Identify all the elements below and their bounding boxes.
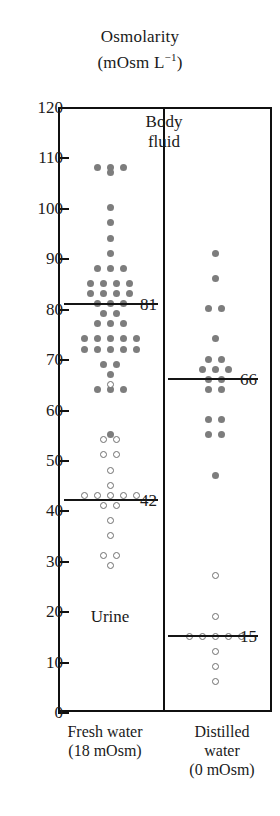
data-point [113,502,120,509]
data-point [120,335,127,342]
data-point [205,356,212,363]
data-point [120,320,127,327]
data-point [107,235,114,242]
data-point [212,335,219,342]
data-point [81,335,88,342]
data-point [94,335,101,342]
data-point [107,320,114,327]
data-point [120,386,127,393]
data-point [107,381,114,388]
annotation-body-fluid-line1: Body [146,112,183,131]
mean-value-label: 66 [240,371,257,388]
data-point [212,250,219,257]
data-point [94,164,101,171]
data-point [113,290,120,297]
x-axis-label-fresh-water-line2: (18 mOsm) [68,742,141,759]
data-point [100,502,107,509]
chart-title: Osmolarity (mOsm L−1) [0,26,280,73]
panel-divider [163,107,165,712]
figure-osmolarity-dotplot: Osmolarity (mOsm L−1) 120110100908070605… [0,0,280,816]
data-point [100,280,107,287]
x-axis-label-distilled-water: Distilled water (0 mOsm) [164,722,280,779]
data-point [107,517,114,524]
data-point [199,366,206,373]
data-point [113,361,120,368]
data-point [126,280,133,287]
data-point [212,648,219,655]
data-point [94,265,101,272]
data-point [107,532,114,539]
data-point [113,280,120,287]
data-point [87,290,94,297]
data-point [120,346,127,353]
data-point [212,613,219,620]
data-point [212,275,219,282]
data-point [107,492,114,499]
y-axis-tick-label: 100 [3,200,63,217]
data-point [133,335,140,342]
data-point [81,492,88,499]
data-point [107,482,114,489]
data-point [100,290,107,297]
y-axis-tick-label: 0 [3,704,63,721]
y-axis-tick-label: 80 [3,301,63,318]
x-axis-label-fresh-water-line1: Fresh water [67,723,142,740]
annotation-body-fluid: Body fluid [108,112,220,152]
data-point [94,386,101,393]
data-point [81,346,88,353]
data-point [107,265,114,272]
data-point [126,290,133,297]
y-axis-tick-label: 20 [3,603,63,620]
data-point [107,346,114,353]
data-point [107,335,114,342]
chart-title-line2: (mOsm L−1) [0,47,280,73]
data-point [212,572,219,579]
mean-value-label: 15 [240,628,257,645]
data-point [133,492,140,499]
data-point [94,346,101,353]
y-axis-tick-label: 10 [3,654,63,671]
chart-title-line1: Osmolarity [101,27,180,46]
data-point [107,250,114,257]
data-point [120,492,127,499]
x-axis-label-distilled-water-line3: (0 mOsm) [189,761,254,778]
data-point [225,366,232,373]
y-axis-tick-label: 30 [3,553,63,570]
chart-title-units-exponent: −1 [165,51,177,63]
mean-value-label: 42 [140,492,157,509]
annotation-urine: Urine [62,607,158,627]
y-axis-tick-label: 110 [3,149,63,166]
data-point [120,164,127,171]
data-point [205,386,212,393]
data-point [212,663,219,670]
y-axis-tick-label: 120 [3,99,63,116]
data-point [107,562,114,569]
data-point [120,265,127,272]
data-point [94,320,101,327]
y-axis-tick-label: 90 [3,250,63,267]
mean-value-label: 81 [140,296,157,313]
data-point [107,204,114,211]
x-axis-label-distilled-water-line2: water [204,742,240,759]
chart-title-units-prefix: (mOsm L [97,53,164,72]
x-axis-label-fresh-water: Fresh water (18 mOsm) [46,722,164,760]
data-point [107,164,114,171]
data-point [218,386,225,393]
data-point [218,356,225,363]
data-point [212,472,219,479]
y-axis-tick-label: 70 [3,351,63,368]
y-axis-tick-label: 60 [3,402,63,419]
data-point [212,366,219,373]
data-point [133,346,140,353]
chart-title-units-suffix: ) [177,53,183,72]
data-point [107,467,114,474]
data-point [107,219,114,226]
data-point [100,361,107,368]
y-axis-tick-label: 50 [3,452,63,469]
data-point [107,371,114,378]
data-point [87,280,94,287]
annotation-body-fluid-line2: fluid [148,132,180,151]
x-axis-label-distilled-water-line1: Distilled [194,723,249,740]
y-axis-tick-label: 40 [3,502,63,519]
data-point [94,492,101,499]
